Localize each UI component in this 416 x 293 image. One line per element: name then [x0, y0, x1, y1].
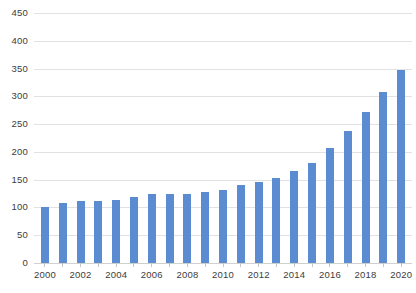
bar-slot [374, 13, 392, 263]
y-axis-tick-label: 0 [0, 258, 28, 268]
x-label-slot: 2012 [250, 269, 268, 289]
x-tick-slot [214, 263, 232, 267]
bar-slot [89, 13, 107, 263]
bar-slot [250, 13, 268, 263]
x-axis-labels: 2000200220042006200820102012201420162018… [34, 269, 412, 289]
bar-slot [107, 13, 125, 263]
x-label-slot: 2014 [285, 269, 303, 289]
bar [130, 197, 138, 263]
bar [362, 112, 370, 263]
x-tick-mark [347, 263, 348, 267]
x-axis-tick-label: 2012 [248, 269, 270, 280]
bar-slot [268, 13, 286, 263]
x-axis-tick-label: 2000 [34, 269, 56, 280]
x-tick-mark [294, 263, 295, 267]
bar [183, 194, 191, 263]
x-tick-slot [143, 263, 161, 267]
bar [41, 207, 49, 263]
x-tick-mark [44, 263, 45, 267]
x-tick-slot [54, 263, 72, 267]
bar-series [34, 13, 412, 263]
x-tick-mark [365, 263, 366, 267]
x-tick-slot [89, 263, 107, 267]
x-tick-mark [151, 263, 152, 267]
x-tick-slot [374, 263, 392, 267]
bar [397, 70, 405, 263]
bar-slot [161, 13, 179, 263]
x-tick-slot [303, 263, 321, 267]
x-tick-slot [339, 263, 357, 267]
bar-slot [232, 13, 250, 263]
x-label-slot: 2006 [143, 269, 161, 289]
bar [219, 190, 227, 263]
x-tick-mark [187, 263, 188, 267]
y-axis-tick-label: 300 [0, 91, 28, 101]
y-axis-tick-label: 450 [0, 8, 28, 18]
x-tick-mark [223, 263, 224, 267]
bar-slot [392, 13, 410, 263]
x-axis-tick-label: 2006 [141, 269, 163, 280]
x-tick-mark [258, 263, 259, 267]
bar [272, 178, 280, 263]
x-tick-slot [232, 263, 250, 267]
x-tick-mark [276, 263, 277, 267]
x-tick-slot [392, 263, 410, 267]
bar-slot [339, 13, 357, 263]
x-tick-mark [98, 263, 99, 267]
x-tick-slot [36, 263, 54, 267]
y-axis-tick-label: 50 [0, 230, 28, 240]
x-tick-slot [72, 263, 90, 267]
x-axis-ticks [34, 263, 412, 267]
x-tick-mark [312, 263, 313, 267]
x-tick-slot [321, 263, 339, 267]
x-tick-slot [179, 263, 197, 267]
bar-slot [36, 13, 54, 263]
x-axis-tick-label: 2020 [390, 269, 412, 280]
y-axis-tick-label: 350 [0, 64, 28, 74]
x-tick-mark [80, 263, 81, 267]
x-axis-tick-label: 2004 [105, 269, 127, 280]
x-tick-slot [196, 263, 214, 267]
bar [290, 171, 298, 263]
y-axis-tick-label: 400 [0, 36, 28, 46]
x-tick-slot [268, 263, 286, 267]
bar [255, 182, 263, 263]
bar [379, 92, 387, 263]
y-axis-tick-label: 150 [0, 175, 28, 185]
x-tick-slot [125, 263, 143, 267]
bar-chart: 050100150200250300350400450 200020022004… [0, 0, 416, 293]
bar [94, 201, 102, 263]
y-axis-tick-label: 250 [0, 119, 28, 129]
x-tick-mark [169, 263, 170, 267]
bar-slot [72, 13, 90, 263]
x-axis-tick-label: 2014 [283, 269, 305, 280]
bar-slot [54, 13, 72, 263]
x-tick-slot [107, 263, 125, 267]
x-axis-tick-label: 2002 [70, 269, 92, 280]
x-tick-mark [383, 263, 384, 267]
x-label-slot: 2016 [321, 269, 339, 289]
bar [112, 200, 120, 263]
bar [308, 163, 316, 263]
bar-slot [196, 13, 214, 263]
y-axis-tick-label: 200 [0, 147, 28, 157]
bar [148, 194, 156, 263]
x-tick-slot [357, 263, 375, 267]
x-tick-mark [62, 263, 63, 267]
x-tick-mark [205, 263, 206, 267]
x-tick-mark [116, 263, 117, 267]
x-axis-tick-label: 2010 [212, 269, 234, 280]
x-axis-tick-label: 2016 [319, 269, 341, 280]
bar-slot [179, 13, 197, 263]
x-axis-tick-label: 2008 [176, 269, 198, 280]
x-label-slot: 2018 [357, 269, 375, 289]
x-label-slot: 2002 [72, 269, 90, 289]
bar [166, 194, 174, 263]
x-label-slot: 2008 [179, 269, 197, 289]
y-axis-tick-label: 100 [0, 202, 28, 212]
x-axis: 2000200220042006200820102012201420162018… [34, 263, 412, 293]
x-label-slot: 2020 [392, 269, 410, 289]
bar [77, 201, 85, 263]
x-tick-mark [240, 263, 241, 267]
x-label-slot: 2000 [36, 269, 54, 289]
